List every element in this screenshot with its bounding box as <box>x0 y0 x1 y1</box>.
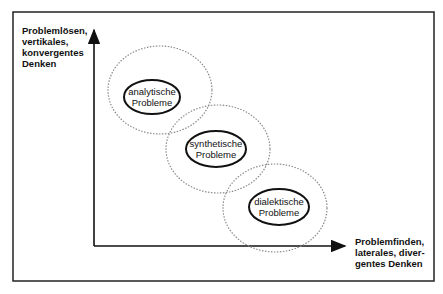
y-axis-label-line: Denken <box>22 58 92 69</box>
dialectic-label: dialektische Probleme <box>247 196 311 218</box>
node-label-line: dialektische <box>247 196 311 207</box>
node-label-line: Probleme <box>122 97 182 108</box>
node-label-line: synthetische <box>184 138 248 149</box>
y-axis-label: Problemlösen, vertikales, konvergentes D… <box>22 25 92 69</box>
x-axis-label-line: gentes Denken <box>355 258 430 269</box>
x-axis-label-line: Problemfinden, <box>355 236 430 247</box>
x-axis-label-line: laterales, diver- <box>355 247 430 258</box>
node-label-line: analytische <box>122 86 182 97</box>
y-axis-label-line: Problemlösen, <box>22 25 92 36</box>
node-label-line: Probleme <box>247 207 311 218</box>
node-label-line: Probleme <box>184 149 248 160</box>
x-axis-label: Problemfinden, laterales, diver- gentes … <box>355 236 430 269</box>
synthetic-label: synthetische Probleme <box>184 138 248 160</box>
y-axis-label-line: konvergentes <box>22 47 92 58</box>
y-axis-label-line: vertikales, <box>22 36 92 47</box>
analytic-label: analytische Probleme <box>122 86 182 108</box>
